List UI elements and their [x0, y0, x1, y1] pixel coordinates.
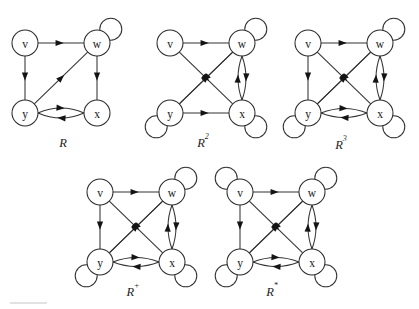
arrowhead-graph-Rstar-v-to-y [237, 221, 243, 229]
node-label-y: y [305, 108, 311, 121]
node-graph-R3-x[interactable]: x [367, 100, 393, 126]
edge-graph-Rstar-x-to-y [253, 262, 299, 270]
arrowhead-graph-R3-v-to-y [305, 72, 311, 80]
graph-caption-superscript: * [274, 281, 278, 290]
node-graph-Rstar-x[interactable]: x [299, 249, 325, 275]
graph-Rstar: vwyxR* [215, 167, 337, 299]
node-graph-R-v[interactable]: v [12, 30, 38, 56]
edge-graph-R-v-to-y [22, 56, 28, 100]
graphs-layer: vwyxRvwyxR2vwyxR3vwyxR+vwyxR* [12, 18, 405, 299]
node-graph-Rstar-v[interactable]: v [227, 179, 253, 205]
arrowhead-graph-R-v-to-y [22, 72, 28, 80]
node-label-v: v [167, 38, 173, 50]
node-graph-R-y[interactable]: y [12, 100, 38, 126]
arrowhead-graph-R3-v-to-w [339, 40, 347, 46]
node-label-w: w [376, 38, 385, 50]
arrowhead-graph-Rplus-x-to-y [132, 264, 140, 270]
node-graph-Rplus-y[interactable]: y [87, 249, 113, 275]
node-graph-R2-y[interactable]: y [157, 100, 183, 126]
edge-graph-R3-v-to-y [305, 56, 311, 100]
node-label-w: w [168, 187, 177, 199]
arrowhead-graph-Rstar-y-to-x [271, 254, 279, 260]
edge-graph-Rplus-v-to-y [97, 205, 103, 249]
arrowhead-graph-Rplus-w-to-x [173, 222, 179, 230]
edge-graph-R3-x-to-y [321, 113, 367, 121]
graph-caption-graph-R2: R2 [196, 132, 209, 151]
node-graph-Rstar-y[interactable]: y [227, 249, 253, 275]
graph-caption-graph-Rplus: R+ [125, 281, 139, 300]
arrowhead-graph-R2-w-to-x [243, 73, 249, 81]
graph-caption-superscript: 3 [342, 134, 347, 143]
arrowhead-graph-Rstar-x-to-w [305, 223, 311, 231]
edge-graph-R3-w-to-x [380, 56, 387, 100]
arrowhead-graph-R-x-to-y [57, 115, 65, 121]
node-label-x: x [377, 108, 383, 120]
arrowhead-graph-Rstar-w-to-x [313, 222, 319, 230]
node-graph-Rplus-x[interactable]: x [159, 249, 185, 275]
node-graph-Rplus-w[interactable]: w [159, 179, 185, 205]
edge-graph-R2-y-to-x [183, 110, 229, 116]
arrowhead-graph-R3-w-to-x [381, 73, 387, 81]
arrowhead-graph-Rstar-x-to-y [272, 264, 280, 270]
graph-R2: vwyxR2 [145, 18, 267, 150]
arrowhead-graph-Rplus-x-to-w [165, 223, 171, 231]
node-label-x: x [169, 257, 175, 269]
graph-caption-superscript: 2 [205, 132, 209, 141]
arrowhead-graph-R-w-to-x [94, 72, 100, 80]
node-graph-Rstar-w[interactable]: w [299, 179, 325, 205]
edge-graph-Rplus-x-to-w [165, 205, 172, 249]
arrowhead-graph-R-y-to-x [56, 104, 64, 110]
edge-graph-Rstar-w-to-x [312, 205, 319, 249]
arrowhead-graph-R3-x-to-w [373, 74, 379, 82]
node-label-y: y [97, 257, 103, 270]
node-label-v: v [97, 187, 103, 199]
arrowhead-graph-R2-v-to-w [201, 40, 209, 46]
node-label-v: v [305, 38, 311, 50]
node-graph-R2-x[interactable]: x [229, 100, 255, 126]
edge-graph-Rstar-v-to-y [237, 205, 243, 249]
edge-graph-Rplus-w-to-x [172, 205, 179, 249]
edge-graph-Rplus-y-to-x [113, 254, 159, 262]
edge-graph-Rplus-x-to-y [113, 262, 159, 270]
graph-Rplus: vwyxR+ [75, 167, 197, 299]
node-graph-R-x[interactable]: x [84, 100, 110, 126]
node-label-v: v [22, 38, 28, 50]
node-graph-R-w[interactable]: w [84, 30, 110, 56]
directed-graph-figure: vwyxRvwyxR2vwyxR3vwyxR+vwyxR* [0, 0, 419, 309]
edge-graph-Rstar-x-to-w [305, 205, 312, 249]
edge-graph-R-v-to-w [38, 40, 84, 46]
edge-graph-Rstar-y-to-x [253, 254, 299, 262]
node-graph-Rplus-v[interactable]: v [87, 179, 113, 205]
node-label-x: x [94, 108, 100, 120]
node-label-y: y [237, 257, 243, 270]
node-label-y: y [22, 108, 28, 121]
node-label-w: w [308, 187, 317, 199]
graph-caption-base: R [58, 136, 67, 150]
node-graph-R2-v[interactable]: v [157, 30, 183, 56]
node-graph-R3-y[interactable]: y [295, 100, 321, 126]
edge-graph-R-y-to-x [38, 104, 84, 113]
arrowhead-graph-R-v-to-w [56, 40, 64, 46]
graph-R3: vwyxR3 [283, 18, 405, 152]
edge-graph-R3-y-to-x [321, 105, 367, 113]
edge-graph-R-y-to-w [34, 52, 87, 104]
node-label-w: w [93, 38, 102, 50]
graph-R: vwyxR [12, 18, 122, 150]
graph-caption-graph-Rstar: R* [265, 281, 278, 300]
node-graph-R3-w[interactable]: w [367, 30, 393, 56]
node-graph-R2-w[interactable]: w [229, 30, 255, 56]
graph-caption-graph-R: R [58, 136, 67, 150]
arrowhead-graph-R2-x-to-w [235, 74, 241, 82]
edge-graph-Rstar-v-to-w [253, 189, 299, 195]
arrowhead-graph-Rplus-v-to-y [97, 221, 103, 229]
arrowhead-graph-Rstar-v-to-w [271, 189, 279, 195]
node-label-w: w [238, 38, 247, 50]
edge-graph-R2-x-to-w [235, 56, 242, 100]
node-graph-R3-v[interactable]: v [295, 30, 321, 56]
arrowhead-graph-R2-y-to-x [201, 110, 209, 116]
edge-graph-R2-v-to-w [183, 40, 229, 46]
graph-caption-superscript: + [134, 281, 139, 290]
arrowhead-graph-R3-x-to-y [340, 115, 348, 121]
graph-caption-graph-R3: R3 [334, 134, 347, 153]
arrowhead-graph-Rplus-y-to-x [131, 254, 139, 260]
